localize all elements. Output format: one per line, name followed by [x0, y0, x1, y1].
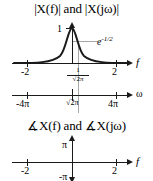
omega-axis-name: ω: [136, 89, 143, 99]
phase-axis-down-arrow-icon: [69, 177, 75, 181]
omega-axis-arrow-icon: [127, 92, 133, 98]
omega-axis-line: [12, 95, 128, 96]
gaussian-curve: [12, 23, 132, 65]
f-special-tick-denominator: √2π: [67, 75, 89, 84]
f-axis-name: f: [136, 57, 139, 68]
f-tick-label-pos2: 2: [112, 67, 117, 77]
phase-plot-title: ∡X(f) and ∡X(jω): [0, 119, 153, 133]
phase-f-axis-line: [12, 162, 128, 163]
phase-f-axis-arrow-icon: [127, 159, 133, 165]
phase-axis-up-arrow-icon: [69, 135, 75, 141]
phase-pi-label: π: [62, 140, 67, 150]
peak-value-label: 1: [57, 24, 62, 34]
e-half-annotation: e-1/2: [97, 34, 113, 47]
magnitude-plot-title: |X(f)| and |X(jω)|: [0, 2, 153, 16]
phase-f-axis-name: f: [136, 156, 139, 167]
figure-container: |X(f)| and |X(jω)| 1 e-1/2 -2 2 f 1 √2π …: [0, 0, 153, 181]
e-half-exponent: -1/2: [101, 35, 112, 43]
omega-special-tick-label: √2π: [66, 99, 78, 107]
phase-neg-pi-label: -π: [59, 172, 67, 181]
omega-tick-label-pos4pi: 4π: [108, 99, 118, 109]
f-special-tick-label: 1 √2π: [67, 67, 89, 84]
phase-vertical-axis: [72, 140, 73, 181]
f-tick-label-neg2: -2: [21, 67, 29, 77]
phase-f-tick-label-pos2: 2: [112, 166, 117, 176]
phase-f-tick-label-neg2: -2: [21, 166, 29, 176]
f-special-tick-numerator: 1: [67, 67, 89, 75]
omega-tick-label-neg4pi: -4π: [16, 99, 29, 109]
